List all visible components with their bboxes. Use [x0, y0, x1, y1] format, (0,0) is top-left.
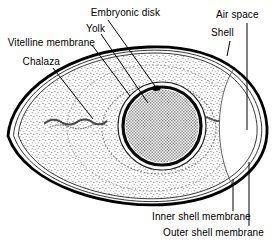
egg-anatomy-diagram: Embryonic disk Yolk Vitelline membrane C… [0, 0, 275, 244]
leader-shell [227, 41, 230, 56]
label-inner-shell-membrane: Inner shell membrane [152, 211, 251, 222]
label-vitelline-membrane: Vitelline membrane [8, 37, 95, 48]
label-yolk: Yolk [86, 23, 105, 34]
label-outer-shell-membrane: Outer shell membrane [163, 227, 264, 238]
label-shell: Shell [211, 27, 234, 38]
yolk-circle [126, 90, 199, 163]
label-chalaza: Chalaza [23, 56, 60, 67]
label-embryonic-disk: Embryonic disk [91, 7, 160, 18]
label-air-space: Air space [216, 9, 259, 20]
